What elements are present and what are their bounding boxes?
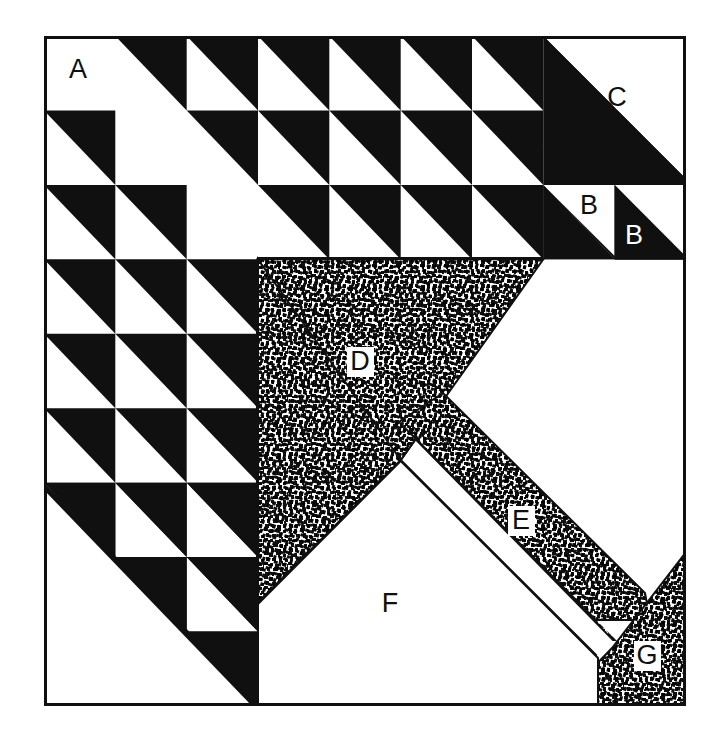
label-F: F (382, 588, 399, 618)
label-B-black-triangle: B (625, 220, 643, 250)
label-B-white-triangle: B (580, 190, 598, 220)
label-A: A (69, 54, 87, 84)
label-C: C (607, 82, 627, 112)
label-D: D (350, 346, 370, 376)
label-G: G (636, 640, 657, 670)
label-E: E (512, 505, 530, 535)
figure-canvas: A B B C D E F G (0, 0, 714, 734)
quilt-block-diagram: A B B C D E F G (0, 0, 714, 734)
vertical-sash (256, 259, 259, 609)
